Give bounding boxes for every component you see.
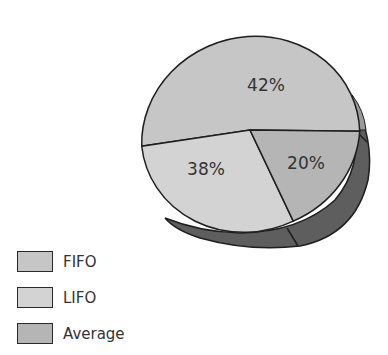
legend-item-fifo: FIFO xyxy=(17,251,125,272)
legend-label: LIFO xyxy=(63,289,96,307)
legend-label: Average xyxy=(63,325,125,343)
legend-item-lifo: LIFO xyxy=(17,287,125,308)
legend-swatch-lifo xyxy=(17,287,53,308)
legend-label: FIFO xyxy=(63,253,97,271)
legend-item-average: Average xyxy=(17,323,125,344)
slice-label-average: 20% xyxy=(287,153,325,173)
slice-label-fifo: 42% xyxy=(247,75,285,95)
legend-swatch-average xyxy=(17,323,53,344)
slice-label-lifo: 38% xyxy=(187,159,225,179)
legend: FIFO LIFO Average xyxy=(17,251,125,355)
legend-swatch-fifo xyxy=(17,251,53,272)
